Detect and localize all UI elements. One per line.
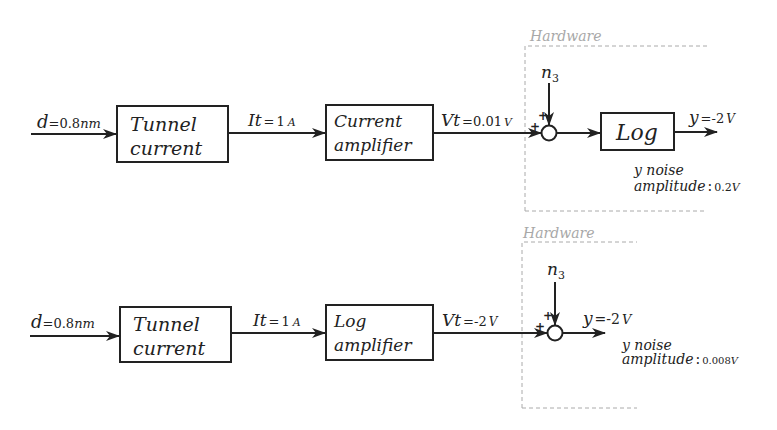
block-label: Tunnel bbox=[130, 113, 197, 135]
hardware-label: Hardware bbox=[529, 28, 602, 44]
block-label: Tunnel bbox=[133, 313, 200, 335]
noise-note-line1: y noise bbox=[633, 162, 684, 178]
voltage-label: Vt=-2V bbox=[442, 310, 499, 330]
noise-label: n3 bbox=[541, 62, 559, 85]
block-label: current bbox=[133, 337, 206, 359]
block-label: amplifier bbox=[334, 135, 412, 155]
block-label: amplifier bbox=[334, 335, 412, 355]
top-diagram: Hardware d=0.8nm Tunnel current It=1A Cu… bbox=[31, 28, 741, 211]
block-label: current bbox=[130, 137, 203, 159]
voltage-label: Vt=0.01V bbox=[441, 110, 513, 130]
sum-sign-top: + bbox=[538, 109, 548, 123]
block-label: Log bbox=[333, 311, 367, 331]
block-label: Current bbox=[334, 111, 402, 131]
noise-note-line2: amplitude:0.2V bbox=[634, 178, 741, 194]
output-label: y=-2V bbox=[582, 308, 633, 328]
noise-note-line2: amplitude:0.008V bbox=[622, 351, 740, 367]
hardware-label: Hardware bbox=[522, 225, 595, 241]
block-label: Log bbox=[615, 120, 658, 145]
output-label: y=-2V bbox=[688, 107, 736, 127]
input-label: d=0.8nm bbox=[31, 311, 95, 332]
summing-junction bbox=[548, 326, 563, 341]
block-diagram: Hardware d=0.8nm Tunnel current It=1A Cu… bbox=[0, 0, 777, 430]
current-label: It=1A bbox=[247, 110, 296, 130]
bottom-diagram: Hardware d=0.8nm Tunnel current It=1A Lo… bbox=[30, 225, 740, 408]
summing-junction bbox=[542, 126, 557, 141]
input-label: d=0.8nm bbox=[37, 111, 101, 132]
noise-label: n3 bbox=[547, 259, 565, 282]
current-label: It=1A bbox=[252, 310, 301, 330]
sum-sign-top: + bbox=[543, 309, 553, 323]
